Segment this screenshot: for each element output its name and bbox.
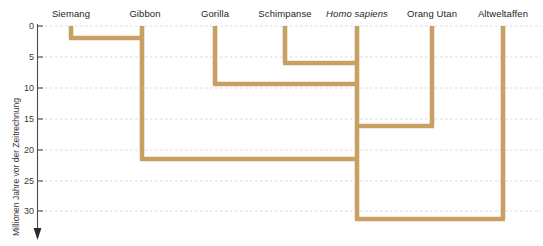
taxon-label-schimpanse: Schimpanse — [258, 8, 311, 19]
axis-ticks — [38, 26, 44, 211]
tick-label-5: 5 — [12, 52, 34, 62]
tree-branches — [69, 26, 505, 219]
taxon-label-siemang: Siemang — [52, 8, 90, 19]
taxon-label-altweltaffen: Altweltaffen — [478, 8, 528, 19]
taxon-label-homo-sapiens: Homo sapiens — [326, 8, 388, 19]
tick-label-10: 10 — [12, 83, 34, 93]
taxon-label-orang-utan: Orang Utan — [407, 8, 457, 19]
taxon-label-gorilla: Gorilla — [201, 8, 229, 19]
gridlines — [40, 26, 541, 211]
tree-diagram — [0, 0, 543, 246]
y-axis — [34, 24, 43, 240]
y-axis-title: Millionen Jahre vor der Zeitrechnung — [11, 98, 21, 236]
taxon-label-gibbon: Gibbon — [129, 8, 160, 19]
phylogenetic-tree-figure: Siemang Gibbon Gorilla Schimpanse Homo s… — [0, 0, 543, 246]
tick-label-0: 0 — [12, 21, 34, 31]
